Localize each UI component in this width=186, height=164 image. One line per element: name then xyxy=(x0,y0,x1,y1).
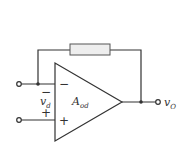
input-terminal-inverting xyxy=(17,82,22,87)
circuit-diagram xyxy=(0,0,186,164)
output-terminal xyxy=(156,100,161,105)
feedback-wire-right xyxy=(110,50,141,102)
input-terminal-noninverting xyxy=(17,118,22,123)
vd-plus-sign: + xyxy=(41,107,51,119)
noninverting-input-sign: + xyxy=(59,115,69,127)
output-label: vO xyxy=(164,97,176,111)
junction-dot-output xyxy=(139,100,143,104)
gain-label: Aod xyxy=(72,96,89,110)
feedback-resistor xyxy=(70,44,110,55)
junction-dot-input xyxy=(36,82,40,86)
inverting-input-sign: − xyxy=(59,78,69,90)
